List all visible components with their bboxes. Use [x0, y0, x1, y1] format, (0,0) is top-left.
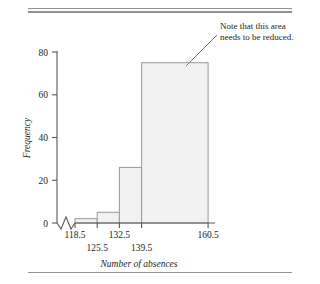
annotation-leader-line [186, 35, 217, 66]
y-tick-label-80: 80 [39, 48, 49, 58]
figure-container: 0 20 40 60 80 118.5 132.5 160.5 125.5 13… [0, 0, 320, 284]
bar-132.5-139.5 [119, 167, 141, 223]
axis-break-zigzag [57, 217, 75, 229]
y-axis: 0 20 40 60 80 [39, 48, 58, 229]
histogram-plot: 0 20 40 60 80 118.5 132.5 160.5 125.5 13… [0, 18, 320, 268]
x-axis-title: Number of absences [99, 259, 177, 268]
y-tick-label-0: 0 [43, 219, 48, 229]
y-tick-label-40: 40 [39, 133, 49, 143]
x-tick-label-118.5: 118.5 [64, 230, 85, 240]
x-tick-label-125.5: 125.5 [87, 243, 109, 253]
annotation-line-2: needs to be reduced. [220, 32, 293, 42]
annotation-group: Note that this area needs to be reduced. [186, 21, 293, 66]
bars-group [75, 63, 208, 223]
x-tick-label-132.5: 132.5 [109, 230, 131, 240]
x-tick-label-139.5: 139.5 [131, 243, 153, 253]
x-tick-label-160.5: 160.5 [197, 230, 219, 240]
bar-125.5-132.5 [97, 212, 119, 223]
bar-139.5-160.5 [142, 63, 209, 223]
annotation-line-1: Note that this area [220, 21, 286, 31]
y-tick-label-60: 60 [39, 90, 49, 100]
top-rule-thin [28, 8, 292, 9]
bottom-rule [28, 272, 292, 273]
bar-118.5-125.5 [75, 219, 97, 223]
y-tick-label-20: 20 [39, 176, 49, 186]
top-rule-thick [28, 11, 292, 13]
y-axis-title: Frequency [22, 117, 32, 159]
